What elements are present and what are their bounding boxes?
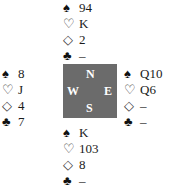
east-clubs-cards: –: [140, 114, 147, 130]
west-hand: ♠ 8 ♡ J ◇ 4 ♣ 7: [2, 66, 25, 130]
south-hearts-cards: 103: [79, 141, 99, 157]
south-clubs-cards: –: [79, 173, 86, 189]
west-clubs-cards: 7: [18, 114, 25, 130]
compass-east-label: E: [104, 85, 112, 97]
north-clubs-row: ♣ –: [63, 48, 92, 64]
east-clubs-row: ♣ –: [124, 114, 162, 130]
north-hearts-cards: K: [79, 16, 88, 32]
west-hearts-row: ♡ J: [2, 82, 25, 98]
east-diamonds-row: ◇ –: [124, 98, 162, 114]
compass-west-label: W: [67, 85, 79, 97]
east-hearts-cards: Q6: [140, 82, 156, 98]
east-hearts-row: ♡ Q6: [124, 82, 162, 98]
east-spades-row: ♠ Q10: [124, 66, 162, 82]
west-clubs-row: ♣ 7: [2, 114, 25, 130]
club-icon: ♣: [124, 114, 140, 130]
diamond-icon: ◇: [2, 98, 18, 114]
heart-icon: ♡: [63, 141, 79, 157]
north-spades-row: ♠ 94: [63, 0, 92, 16]
heart-icon: ♡: [124, 82, 140, 98]
spade-icon: ♠: [63, 125, 79, 141]
heart-icon: ♡: [2, 82, 18, 98]
east-diamonds-cards: –: [140, 98, 147, 114]
diamond-icon: ◇: [124, 98, 140, 114]
east-hand: ♠ Q10 ♡ Q6 ◇ – ♣ –: [124, 66, 162, 130]
west-spades-cards: 8: [18, 66, 25, 82]
west-hearts-cards: J: [18, 82, 23, 98]
south-spades-row: ♠ K: [63, 125, 99, 141]
spade-icon: ♠: [63, 0, 79, 16]
compass-south-label: S: [86, 102, 93, 114]
south-spades-cards: K: [79, 125, 88, 141]
north-hand: ♠ 94 ♡ K ◇ 2 ♣ –: [63, 0, 92, 64]
south-hearts-row: ♡ 103: [63, 141, 99, 157]
north-hearts-row: ♡ K: [63, 16, 92, 32]
diamond-icon: ◇: [63, 157, 79, 173]
south-diamonds-cards: 8: [79, 157, 86, 173]
north-spades-cards: 94: [79, 0, 92, 16]
north-clubs-cards: –: [79, 48, 86, 64]
west-diamonds-cards: 4: [18, 98, 25, 114]
compass-north-label: N: [86, 68, 95, 80]
south-hand: ♠ K ♡ 103 ◇ 8 ♣ –: [63, 125, 99, 189]
west-diamonds-row: ◇ 4: [2, 98, 25, 114]
diamond-icon: ◇: [63, 32, 79, 48]
club-icon: ♣: [63, 173, 79, 189]
south-diamonds-row: ◇ 8: [63, 157, 99, 173]
north-diamonds-row: ◇ 2: [63, 32, 92, 48]
south-clubs-row: ♣ –: [63, 173, 99, 189]
compass-table: N W E S: [63, 64, 117, 118]
spade-icon: ♠: [2, 66, 18, 82]
heart-icon: ♡: [63, 16, 79, 32]
club-icon: ♣: [2, 114, 18, 130]
north-diamonds-cards: 2: [79, 32, 86, 48]
west-spades-row: ♠ 8: [2, 66, 25, 82]
spade-icon: ♠: [124, 66, 140, 82]
club-icon: ♣: [63, 48, 79, 64]
east-spades-cards: Q10: [140, 66, 162, 82]
